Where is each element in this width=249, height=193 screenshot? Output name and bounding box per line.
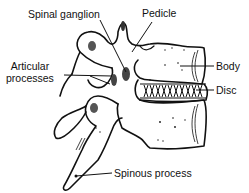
pedicle-notch bbox=[140, 46, 154, 50]
label-pedicle: Pedicle bbox=[142, 8, 176, 19]
label-spinous-process: Spinous process bbox=[114, 168, 192, 179]
leader-articular-lower bbox=[90, 76, 110, 84]
upper-arch-outline bbox=[77, 23, 205, 84]
upper-transverse bbox=[72, 52, 80, 74]
label-body: Body bbox=[216, 61, 240, 72]
disc-hatching bbox=[140, 84, 206, 98]
lower-body-outline bbox=[117, 100, 206, 149]
spinous-leader-dot bbox=[75, 175, 78, 178]
left-process bbox=[60, 74, 72, 96]
label-disc: Disc bbox=[216, 85, 236, 96]
label-articular-line1: Articular bbox=[6, 60, 54, 72]
label-articular-line2: processes bbox=[6, 72, 54, 84]
pedicle-top-spot bbox=[121, 21, 125, 31]
lower-superior-process bbox=[54, 106, 86, 138]
leader-spinous bbox=[76, 173, 112, 176]
lower-foramen-spot bbox=[90, 103, 98, 113]
label-spinal-ganglion: Spinal ganglion bbox=[28, 9, 100, 20]
stippling bbox=[95, 47, 185, 141]
upper-body-bottom bbox=[150, 80, 202, 84]
vertebra-diagram bbox=[0, 0, 249, 193]
ganglion-spot bbox=[122, 67, 130, 81]
label-articular-processes: Articular processes bbox=[6, 60, 54, 84]
upper-body-posterior bbox=[134, 60, 150, 80]
upper-foramen-spot bbox=[88, 41, 96, 51]
upper-inferior-process bbox=[88, 68, 113, 88]
body-edge-lines bbox=[76, 50, 198, 150]
